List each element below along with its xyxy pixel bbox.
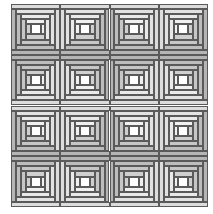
quilt-block — [159, 106, 208, 157]
log-strip-bottom — [169, 192, 199, 197]
log-strip-bottom — [174, 136, 194, 141]
log-strip-bottom — [65, 197, 104, 202]
log-strip-bottom — [75, 136, 95, 141]
log-strip-right — [100, 116, 105, 146]
log-strip-right — [100, 14, 105, 44]
log-strip-right — [203, 9, 208, 50]
log-strip-right — [95, 70, 100, 90]
log-strip-right — [198, 14, 203, 44]
log-strip-right — [50, 14, 55, 44]
center-square — [129, 177, 139, 187]
log-strip-bottom — [21, 192, 51, 197]
log-strip-bottom — [75, 85, 95, 90]
log-strip-right — [198, 116, 203, 146]
log-strip-right — [193, 70, 198, 90]
quilt-block — [11, 55, 60, 106]
log-strip-bottom — [21, 90, 51, 95]
log-strip-right — [139, 126, 144, 136]
log-strip-bottom — [159, 202, 208, 207]
log-strip-right — [198, 65, 203, 95]
log-strip-right — [203, 60, 208, 101]
center-square — [31, 75, 41, 85]
center-square — [178, 177, 188, 187]
log-strip-bottom — [26, 136, 46, 141]
log-strip-bottom — [164, 45, 203, 50]
log-strip-right — [41, 126, 46, 136]
log-strip-bottom — [114, 146, 153, 151]
log-strip-right — [188, 75, 193, 85]
log-strip-right — [193, 171, 198, 191]
quilt-block — [11, 106, 60, 157]
log-strip-right — [41, 75, 46, 85]
log-strip-bottom — [26, 85, 46, 90]
log-strip-right — [193, 121, 198, 141]
log-strip-bottom — [174, 85, 194, 90]
log-strip-bottom — [114, 45, 153, 50]
log-strip-bottom — [11, 202, 60, 207]
log-strip-right — [139, 75, 144, 85]
log-strip-bottom — [119, 90, 149, 95]
log-strip-right — [95, 171, 100, 191]
center-square — [31, 177, 41, 187]
log-strip-right — [203, 111, 208, 152]
log-strip-bottom — [174, 187, 194, 192]
center-square — [178, 75, 188, 85]
log-strip-right — [50, 116, 55, 146]
log-strip-right — [188, 24, 193, 34]
center-square — [31, 126, 41, 136]
log-strip-bottom — [21, 141, 51, 146]
log-strip-right — [193, 19, 198, 39]
quilt-block — [110, 55, 159, 106]
log-strip-right — [95, 19, 100, 39]
log-strip-bottom — [16, 95, 55, 100]
log-strip-bottom — [164, 146, 203, 151]
quilt-block — [159, 4, 208, 55]
log-strip-bottom — [169, 40, 199, 45]
log-strip-bottom — [70, 192, 100, 197]
log-strip-bottom — [114, 95, 153, 100]
log-strip-bottom — [21, 40, 51, 45]
log-strip-right — [188, 126, 193, 136]
log-strip-right — [45, 70, 50, 90]
log-strip-right — [188, 177, 193, 187]
center-square — [80, 126, 90, 136]
log-strip-bottom — [124, 34, 144, 39]
log-strip-right — [45, 121, 50, 141]
center-square — [80, 177, 90, 187]
center-square — [129, 75, 139, 85]
quilt-block — [159, 156, 208, 207]
log-strip-bottom — [75, 34, 95, 39]
log-strip-right — [50, 65, 55, 95]
log-strip-right — [95, 121, 100, 141]
quilt-block — [60, 4, 109, 55]
quilt-block — [60, 106, 109, 157]
log-strip-right — [149, 14, 154, 44]
quilt-block — [110, 4, 159, 55]
log-strip-bottom — [124, 187, 144, 192]
log-strip-bottom — [119, 192, 149, 197]
log-strip-bottom — [70, 90, 100, 95]
quilt-block — [60, 156, 109, 207]
center-square — [80, 75, 90, 85]
center-square — [178, 24, 188, 34]
log-strip-bottom — [26, 34, 46, 39]
log-strip-right — [144, 121, 149, 141]
log-strip-right — [90, 126, 95, 136]
log-strip-bottom — [65, 146, 104, 151]
log-strip-right — [203, 161, 208, 202]
log-strip-bottom — [65, 95, 104, 100]
log-strip-right — [41, 177, 46, 187]
log-strip-right — [50, 166, 55, 196]
log-strip-right — [139, 177, 144, 187]
log-strip-bottom — [169, 141, 199, 146]
quilt-block — [110, 106, 159, 157]
log-strip-right — [90, 177, 95, 187]
log-strip-bottom — [124, 136, 144, 141]
log-strip-bottom — [119, 141, 149, 146]
log-strip-right — [198, 166, 203, 196]
log-strip-bottom — [164, 95, 203, 100]
quilt-block — [110, 156, 159, 207]
center-square — [129, 24, 139, 34]
log-strip-right — [139, 24, 144, 34]
quilt-block — [159, 55, 208, 106]
